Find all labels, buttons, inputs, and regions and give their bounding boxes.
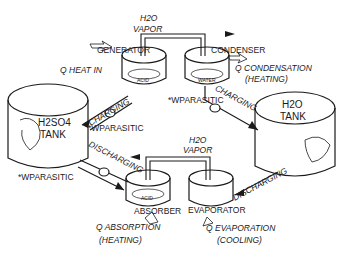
- acid-tag-bottom: ACID: [141, 196, 153, 201]
- evaporation-note: (COOLING): [217, 236, 262, 245]
- absorption-label: Q ABSORPTION: [96, 223, 160, 232]
- evaporator-shape: [189, 170, 233, 206]
- vapor-bottom-formula: H2O: [189, 136, 206, 145]
- h2o-tank-title: H2O: [282, 100, 303, 110]
- condenser-label: CONDENSER: [211, 46, 265, 55]
- absorber-label: ABSORBER: [134, 207, 181, 216]
- vapor-top-label: VAPOR: [133, 25, 162, 34]
- h2o-tank-subtitle: TANK: [280, 112, 306, 122]
- acid-tag-top: ACID: [137, 78, 149, 83]
- condensation-note: (HEATING): [245, 75, 288, 84]
- parasitic-left-top: *WPARASITIC: [88, 124, 144, 133]
- evaporation-label: Q EVAPORATION: [206, 224, 275, 233]
- condensation-label: Q CONDENSATION: [235, 64, 312, 73]
- absorption-note: (HEATING): [99, 236, 142, 245]
- heat-in-label: Q HEAT IN: [60, 66, 102, 75]
- parasitic-right: *WPARASITIC: [168, 96, 224, 105]
- h2so4-tank-title: H2SO4: [38, 118, 71, 128]
- vapor-bottom-label: VAPOR: [183, 146, 212, 155]
- water-tag: WATER: [198, 78, 216, 83]
- parasitic-left-bottom: *WPARASITIC: [18, 173, 74, 182]
- vapor-top-formula: H2O: [140, 14, 157, 23]
- evaporator-label: EVAPORATOR: [188, 206, 246, 215]
- h2so4-tank-subtitle: TANK: [40, 130, 66, 140]
- generator-label: GENERATOR: [97, 46, 150, 55]
